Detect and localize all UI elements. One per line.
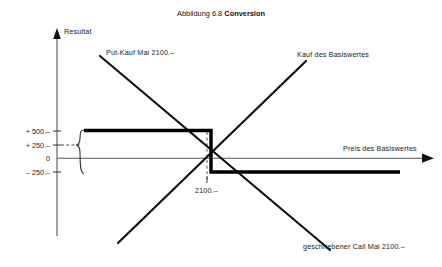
annotation-geschriebener-call: geschriebener Call Mai 2100.–	[303, 242, 405, 251]
x-axis	[57, 154, 434, 163]
y-tick-label-0: 0	[10, 154, 50, 163]
annotation-kauf-basiswert: Kauf des Basiswertes	[297, 50, 369, 59]
figure-canvas: Abbildung 6.8 Conversion	[0, 0, 442, 267]
annotation-put-kauf: Put-Kauf Mai 2100.–	[106, 48, 174, 57]
y-axis	[53, 28, 61, 236]
range-brace	[76, 130, 84, 174]
payoff-diagram	[0, 0, 442, 267]
y-axis-label: Resultat	[64, 27, 92, 36]
x-tick-label-2100: 2100.–	[195, 186, 218, 195]
y-tick-label-250: + 250.–	[10, 141, 50, 150]
y-tick-label-neg250: – 250.–	[10, 168, 50, 177]
y-tick-label-500: + 500.–	[10, 127, 50, 136]
x-axis-label: Preis des Basiswertes	[343, 144, 417, 153]
series-put-kauf-line	[100, 56, 330, 250]
